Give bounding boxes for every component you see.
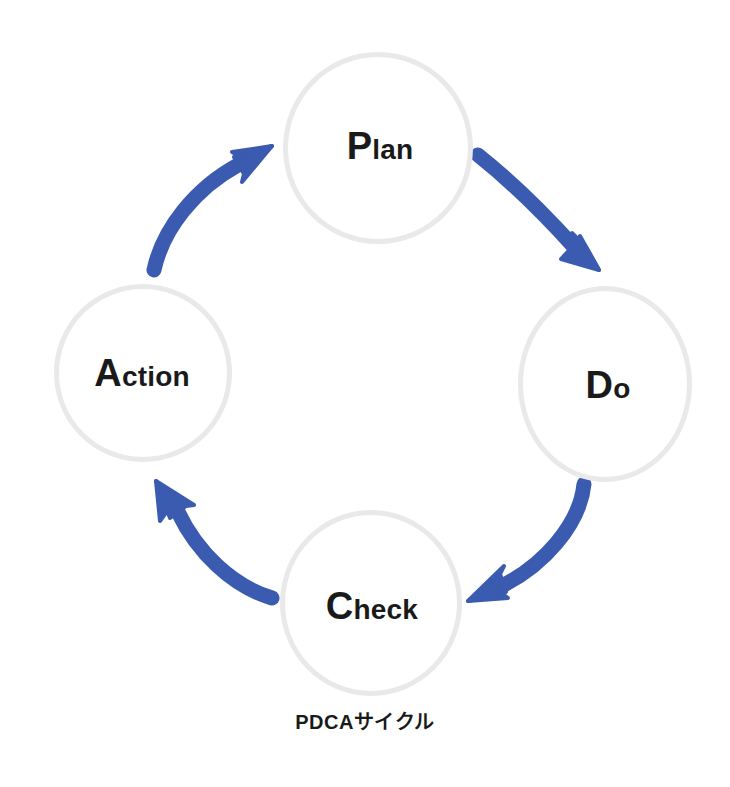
cycle-node-plan-initial: P — [347, 125, 373, 167]
cycle-node-action-initial: A — [94, 352, 122, 394]
cycle-node-check[interactable]: Check — [280, 510, 462, 696]
cycle-node-do[interactable]: Do — [518, 286, 692, 482]
cycle-node-do-label: Do — [586, 366, 631, 404]
pdca-cycle-diagram: Plan Do Check Action PDCAサイクル — [0, 0, 730, 787]
arrow-plan-to-do — [478, 155, 599, 270]
diagram-caption: PDCAサイクル — [0, 706, 730, 735]
cycle-node-action-label: Action — [94, 354, 190, 392]
cycle-node-action[interactable]: Action — [54, 284, 232, 462]
cycle-node-do-initial: D — [586, 364, 614, 406]
arrow-action-to-plan — [154, 146, 272, 270]
cycle-node-check-rest: heck — [354, 594, 419, 625]
cycle-node-action-rest: ction — [122, 361, 190, 392]
cycle-node-plan[interactable]: Plan — [283, 52, 473, 244]
cycle-node-plan-label: Plan — [347, 127, 414, 165]
cycle-node-check-initial: C — [326, 585, 354, 627]
cycle-node-do-rest: o — [613, 373, 630, 404]
cycle-node-plan-rest: lan — [372, 134, 413, 165]
arrow-check-to-action — [156, 481, 272, 598]
arrow-do-to-check — [468, 484, 584, 601]
cycle-node-check-label: Check — [326, 587, 418, 625]
